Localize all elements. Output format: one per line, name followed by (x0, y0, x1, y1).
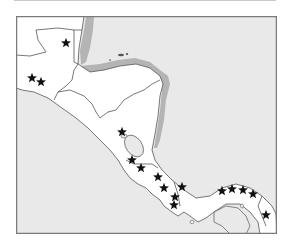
map-frame (16, 16, 277, 234)
top-divider (14, 0, 276, 1)
island (126, 53, 128, 55)
central-america-map (16, 16, 277, 234)
island (190, 220, 194, 223)
island (241, 204, 244, 208)
island (109, 59, 111, 61)
island (118, 54, 124, 56)
